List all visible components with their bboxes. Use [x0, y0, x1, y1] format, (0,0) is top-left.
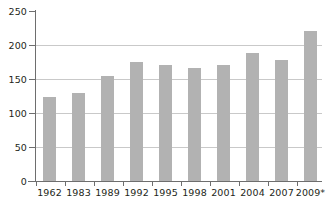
- gridline-200: [36, 45, 322, 46]
- x-tick-mark-6: [210, 182, 211, 186]
- bar-2007: [275, 60, 288, 181]
- x-tick-mark-8: [268, 182, 269, 186]
- x-tick-mark-7: [239, 182, 240, 186]
- x-tick-label-2009: 2009*: [291, 188, 331, 198]
- bar-2004: [246, 53, 259, 181]
- y-axis-labels: 250 200 150 100 50 0: [0, 0, 27, 208]
- bar-1962: [43, 97, 56, 181]
- x-tick-mark-1: [65, 182, 66, 186]
- x-tick-mark-0: [36, 182, 37, 186]
- x-tick-mark-4: [152, 182, 153, 186]
- bar-1983: [72, 93, 85, 181]
- bar-2001: [217, 65, 230, 181]
- x-tick-mark-5: [181, 182, 182, 186]
- y-tick-label-200: 200: [1, 41, 27, 51]
- y-tick-label-50: 50: [1, 143, 27, 153]
- x-tick-mark-9: [297, 182, 298, 186]
- y-tick-label-100: 100: [1, 109, 27, 119]
- y-tick-label-250: 250: [1, 7, 27, 17]
- bar-1992: [130, 62, 143, 181]
- bar-1998: [188, 68, 201, 181]
- y-tick-label-150: 150: [1, 75, 27, 85]
- plot-area: [36, 11, 322, 181]
- x-tick-mark-3: [123, 182, 124, 186]
- bar-2009: [304, 31, 317, 181]
- bar-chart: 250 200 150 100 50 0 196: [0, 0, 331, 208]
- x-axis-line: [28, 181, 322, 182]
- bar-1995: [159, 65, 172, 181]
- y-tick-label-0: 0: [1, 177, 27, 187]
- bar-1989: [101, 76, 114, 181]
- x-tick-mark-2: [94, 182, 95, 186]
